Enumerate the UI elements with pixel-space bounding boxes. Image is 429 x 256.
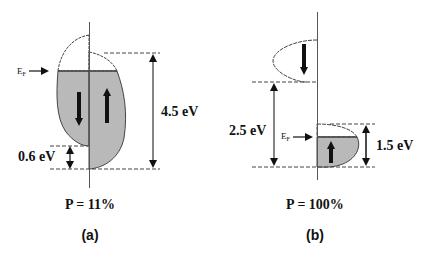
spin-up-dos-empty — [317, 124, 357, 137]
panel-b: 2.5 eV EF 1.5 eV P = 100% (b) — [229, 12, 413, 243]
spin-down-dos-filled — [57, 71, 89, 146]
spin-down-dos-empty — [273, 40, 317, 82]
polarization-label-a: P = 11% — [65, 197, 115, 212]
spin-up-dos-filled — [317, 137, 359, 167]
spin-up-dos-empty — [89, 52, 117, 71]
band-1-5-label: 1.5 eV — [376, 138, 413, 153]
fermi-label: EF — [281, 131, 291, 142]
caption-a: (a) — [81, 227, 98, 243]
gap-2-5-label: 2.5 eV — [229, 123, 266, 138]
panel-a: EF 4.5 eV 0.6 eV P = 11% (a) — [17, 22, 198, 243]
fermi-label: EF — [17, 66, 27, 77]
gap-0-6-label: 0.6 eV — [18, 149, 55, 164]
polarization-label-b: P = 100% — [286, 197, 344, 212]
gap-4-5-label: 4.5 eV — [161, 104, 198, 119]
dos-diagram: EF 4.5 eV 0.6 eV P = 11% (a) 2.5 eV — [0, 0, 429, 256]
spin-down-dos-empty — [58, 35, 89, 71]
caption-b: (b) — [306, 227, 324, 243]
